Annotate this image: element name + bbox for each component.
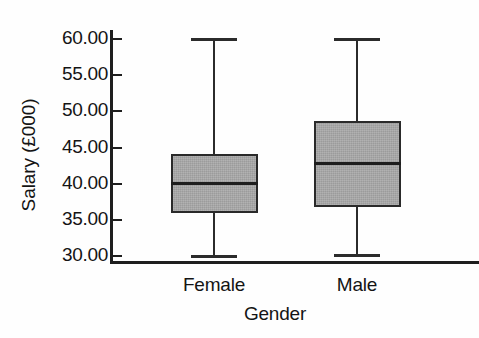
upper-whisker-cap [334, 38, 380, 41]
y-axis-tick-mark [113, 255, 122, 257]
median-line [171, 182, 258, 185]
median-line [314, 162, 401, 165]
upper-whisker-cap [191, 38, 237, 41]
y-axis-tick-mark [113, 147, 122, 149]
y-axis-tick-mark [113, 74, 122, 76]
y-axis-tick-mark [113, 110, 122, 112]
x-axis-title: Gender [110, 303, 440, 325]
y-axis-tick-mark [113, 38, 122, 40]
upper-whisker-line [356, 38, 358, 121]
x-axis-tick-label: Male [287, 274, 427, 296]
y-axis-tick-mark [113, 183, 122, 185]
x-axis-tick-label: Female [144, 274, 284, 296]
y-axis-tick-mark [113, 219, 122, 221]
lower-whisker-line [213, 213, 215, 255]
lower-whisker-cap [191, 255, 237, 258]
upper-whisker-line [213, 38, 215, 154]
lower-whisker-cap [334, 254, 380, 257]
box-plot-chart: Salary (£000) 60.0055.0050.0045.0040.003… [0, 0, 479, 338]
lower-whisker-line [356, 207, 358, 255]
